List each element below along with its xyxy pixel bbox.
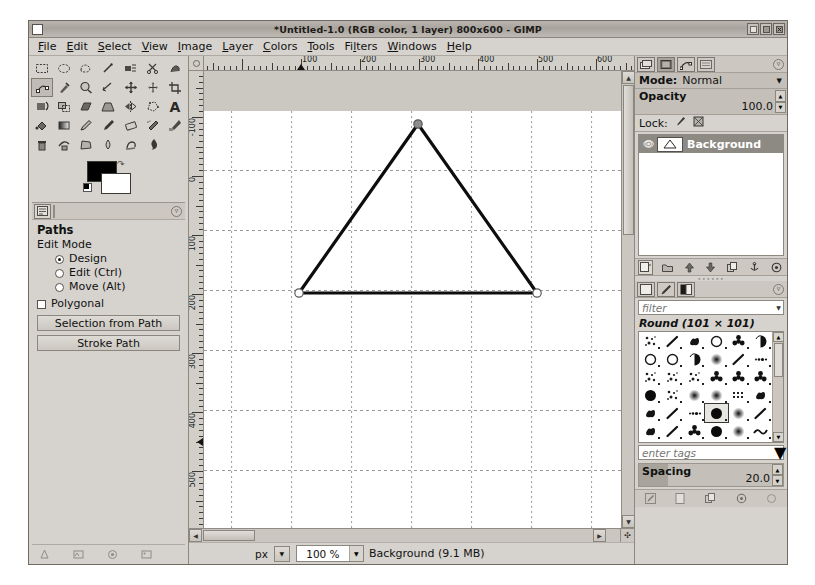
gradients-tab-icon[interactable] [677, 282, 695, 297]
brush-cell-selected[interactable] [705, 404, 727, 422]
vertical-scroll-thumb[interactable] [623, 85, 634, 235]
stroke-path-button[interactable]: Stroke Path [37, 335, 180, 351]
scroll-left-button[interactable]: ◀ [189, 529, 202, 542]
duplicate-layer-icon[interactable] [725, 260, 740, 275]
brush-cell[interactable] [661, 422, 683, 440]
blend-icon[interactable] [53, 116, 75, 135]
cage-transform-icon[interactable] [142, 97, 164, 116]
zoom-dropdown-arrow[interactable]: ▼ [349, 546, 363, 561]
opacity-slider[interactable]: Opacity 100.0 ▲▼ [635, 89, 787, 115]
brush-cell[interactable] [750, 350, 772, 368]
brush-cell[interactable] [728, 368, 750, 386]
background-color-swatch[interactable] [101, 173, 131, 194]
gradient-indicator-icon[interactable] [106, 549, 118, 561]
layers-dock-menu-icon[interactable]: ▿ [773, 59, 784, 70]
selection-from-path-button[interactable]: Selection from Path [37, 315, 180, 331]
brush-cell[interactable] [728, 350, 750, 368]
brush-cell[interactable] [728, 332, 750, 350]
channels-tab-icon[interactable] [657, 57, 675, 72]
scroll-up-button[interactable]: ▲ [622, 71, 635, 84]
spacing-slider[interactable]: Spacing 20.0 ▲▼ [638, 463, 784, 487]
navigate-canvas-icon[interactable]: ✣ [620, 528, 634, 542]
brushes-dock-menu-icon[interactable]: ▿ [773, 284, 784, 295]
horizontal-scroll-thumb[interactable] [203, 530, 255, 541]
menu-layer[interactable]: Layer [217, 39, 258, 54]
rotate-icon[interactable] [31, 97, 53, 116]
brush-cell[interactable] [661, 368, 683, 386]
undo-history-tab-icon[interactable] [697, 57, 715, 72]
brush-scroll-up[interactable]: ▲ [773, 332, 784, 342]
brush-cell[interactable] [705, 368, 727, 386]
tool-options-icon[interactable] [34, 204, 51, 219]
dock-menu-icon[interactable]: ▿ [171, 206, 182, 217]
brush-scroll-down[interactable]: ▼ [773, 432, 784, 442]
move-icon[interactable] [120, 78, 142, 97]
patterns-tab-icon[interactable] [657, 282, 675, 297]
zoom-selector[interactable]: 100 % ▼ [296, 545, 364, 562]
brush-filter-arrow[interactable]: ▼ [774, 304, 783, 311]
brush-cell[interactable] [750, 404, 772, 422]
brush-cell[interactable] [683, 422, 705, 440]
delete-layer-icon[interactable] [769, 260, 784, 275]
menu-help[interactable]: Help [442, 39, 477, 54]
foreground-select-icon[interactable] [164, 59, 186, 78]
vertical-ruler[interactable]: -1000100200300400500 [189, 71, 204, 528]
alignment-icon[interactable] [142, 78, 164, 97]
brush-cell[interactable] [750, 422, 772, 440]
new-brush-icon[interactable] [673, 491, 688, 506]
lock-pixels-icon[interactable] [675, 116, 686, 130]
text-icon[interactable]: A [164, 97, 186, 116]
dodge-burn-icon[interactable] [142, 135, 164, 154]
brush-cell[interactable] [639, 368, 661, 386]
new-layer-group-icon[interactable] [660, 260, 675, 275]
duplicate-brush-icon[interactable] [703, 491, 718, 506]
zoom-icon[interactable] [75, 78, 97, 97]
canvas-content[interactable] [204, 111, 621, 528]
free-select-icon[interactable] [75, 59, 97, 78]
ruler-corner-button[interactable] [189, 56, 204, 71]
paintbrush-icon[interactable] [97, 116, 119, 135]
brush-tags-row[interactable]: ▼ [638, 445, 784, 460]
triangle-path[interactable] [299, 124, 537, 293]
eraser-icon[interactable] [120, 116, 142, 135]
eye-icon[interactable]: 👁 [639, 139, 657, 149]
brush-filter-row[interactable]: ▼ [638, 300, 784, 315]
brush-cell[interactable] [705, 386, 727, 404]
flip-icon[interactable] [120, 97, 142, 116]
heal-icon[interactable] [53, 135, 75, 154]
scissors-select-icon[interactable] [142, 59, 164, 78]
brush-indicator-icon[interactable] [38, 549, 50, 561]
brush-grid[interactable] [639, 332, 772, 442]
crop-icon[interactable] [164, 78, 186, 97]
swap-colors-icon[interactable]: ↷ [117, 159, 125, 169]
paths-icon[interactable] [31, 78, 53, 97]
anchor-layer-icon[interactable] [747, 260, 762, 275]
raise-layer-icon[interactable] [682, 260, 697, 275]
menu-image[interactable]: Image [173, 39, 217, 54]
edit-brush-icon[interactable] [643, 491, 658, 506]
measure-icon[interactable] [97, 78, 119, 97]
brush-tags-input[interactable] [639, 446, 774, 460]
brush-cell[interactable] [639, 386, 661, 404]
brush-cell[interactable] [705, 350, 727, 368]
brush-cell[interactable] [728, 386, 750, 404]
opacity-spinner[interactable]: ▲▼ [775, 90, 786, 113]
brush-cell[interactable] [750, 368, 772, 386]
radio-edit[interactable]: Edit (Ctrl) [55, 266, 180, 280]
reset-colors-icon[interactable] [83, 183, 92, 192]
brush-cell[interactable] [639, 332, 661, 350]
menu-edit[interactable]: Edit [61, 39, 92, 54]
pencil-icon[interactable] [75, 116, 97, 135]
menu-view[interactable]: View [137, 39, 173, 54]
brush-cell[interactable] [639, 350, 661, 368]
lower-layer-icon[interactable] [703, 260, 718, 275]
color-picker-icon[interactable] [53, 78, 75, 97]
close-button[interactable] [773, 23, 785, 35]
polygonal-checkbox[interactable]: Polygonal [37, 297, 180, 311]
lock-alpha-icon[interactable] [693, 116, 704, 130]
path-anchor-1[interactable] [295, 289, 303, 297]
brush-cell[interactable] [639, 404, 661, 422]
image-indicator-icon[interactable] [140, 549, 152, 561]
brush-cell[interactable] [683, 386, 705, 404]
blur-sharpen-icon[interactable] [97, 135, 119, 154]
